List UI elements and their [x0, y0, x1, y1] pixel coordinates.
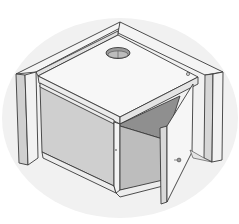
screw-top [186, 72, 189, 75]
hinge-dot [115, 149, 117, 151]
illustration-canvas [0, 0, 239, 224]
door-knob-icon[interactable] [177, 158, 181, 162]
corner-cabinet-drawing [0, 0, 239, 224]
door-edge[interactable] [160, 126, 167, 204]
right-post-side [204, 74, 213, 162]
right-post-front [212, 72, 223, 162]
front-corner-post [114, 122, 120, 193]
